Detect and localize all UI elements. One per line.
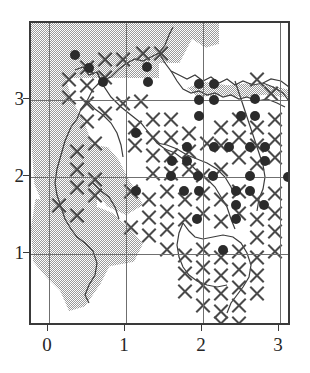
cross-symbol [213, 267, 230, 284]
cross-symbol [133, 93, 150, 110]
cross-symbol [79, 113, 96, 130]
cross-symbol [79, 95, 96, 112]
cross-symbol [87, 171, 104, 188]
cross-symbol [231, 129, 248, 146]
cross-symbol [87, 187, 104, 204]
cross-symbol [115, 95, 132, 112]
cross-symbol [263, 85, 280, 102]
cross-symbol [141, 191, 158, 208]
data-point-dot [194, 186, 204, 196]
data-point-dot [245, 186, 255, 196]
plot-clip-area [31, 23, 288, 323]
cross-symbol [177, 211, 194, 228]
cross-symbol [213, 315, 230, 324]
data-point-dot [84, 63, 94, 73]
data-point-dot [260, 156, 270, 166]
data-point-dot [193, 171, 203, 181]
cross-symbol [153, 45, 170, 62]
cross-symbol [231, 261, 248, 278]
cross-symbol [213, 191, 230, 208]
cross-symbol [249, 267, 266, 284]
data-point-dot [250, 111, 260, 121]
cross-symbol [69, 161, 86, 178]
cross-symbol [249, 285, 266, 302]
data-point-dot [192, 214, 202, 224]
data-point-dot [70, 50, 80, 60]
cross-symbol [231, 243, 248, 260]
cross-symbol [213, 119, 230, 136]
xtick-mark [47, 325, 48, 331]
cross-symbol [213, 213, 230, 230]
gridline-x0 [49, 23, 50, 323]
data-point-dot [143, 77, 153, 87]
cross-symbol [231, 149, 248, 166]
cross-symbol [135, 45, 152, 62]
cross-symbol [249, 249, 266, 266]
data-point-dot [236, 111, 246, 121]
data-point-dot [231, 186, 241, 196]
cross-symbol [87, 135, 104, 152]
cross-symbol [97, 51, 114, 68]
plot-frame [29, 21, 290, 325]
xtick-label-2: 2 [186, 334, 216, 356]
cross-symbol [127, 137, 144, 154]
data-point-dot [98, 77, 108, 87]
xtick-label-3: 3 [263, 334, 293, 356]
data-point-dot [250, 94, 260, 104]
data-point-dot [194, 79, 204, 89]
data-point-dot [142, 62, 152, 72]
cross-symbol [231, 279, 248, 296]
gridline-x2 [203, 23, 204, 323]
ytick-label-1: 1 [0, 242, 24, 264]
gridline-y1 [31, 254, 288, 255]
data-point-dot [245, 171, 255, 181]
distribution-map-figure: 0 1 2 3 3 2 1 [0, 0, 310, 373]
cross-symbol [249, 229, 266, 246]
cross-symbol [69, 143, 86, 160]
data-point-dot [209, 95, 219, 105]
cross-symbol [145, 111, 162, 128]
ytick-label-3: 3 [0, 88, 24, 110]
data-point-dot [182, 156, 192, 166]
data-point-dot [224, 142, 234, 152]
data-point-dot [260, 142, 270, 152]
data-point-dot [231, 214, 241, 224]
cross-symbol [145, 129, 162, 146]
xtick-label-0: 0 [32, 334, 62, 356]
cross-symbol [69, 179, 86, 196]
data-point-dot [259, 200, 269, 210]
data-point-dot [194, 95, 204, 105]
cross-symbol [213, 285, 230, 302]
cross-symbol [231, 297, 248, 314]
cross-symbol [159, 221, 176, 238]
data-point-dot [231, 200, 241, 210]
xtick-mark [124, 325, 125, 331]
xtick-mark [201, 325, 202, 331]
cross-symbol [163, 129, 180, 146]
gridline-x1 [126, 23, 127, 323]
ytick-label-2: 2 [0, 165, 24, 187]
data-point-dot [194, 111, 204, 121]
cross-symbol [141, 209, 158, 226]
gridline-x3 [280, 23, 281, 323]
data-point-dot [179, 186, 189, 196]
data-point-dot [131, 128, 141, 138]
cross-symbol [145, 165, 162, 182]
cross-symbol [159, 183, 176, 200]
cross-symbol [249, 211, 266, 228]
cross-symbol [177, 247, 194, 264]
cross-symbol [141, 227, 158, 244]
cross-symbol [145, 147, 162, 164]
cross-symbol [249, 119, 266, 136]
cross-symbol [69, 207, 86, 224]
cross-symbol [163, 111, 180, 128]
cross-symbol [97, 105, 114, 122]
cross-symbol [231, 315, 248, 324]
data-point-dot [209, 142, 219, 152]
cross-symbol [177, 265, 194, 282]
data-point-dot [245, 142, 255, 152]
xtick-mark [278, 325, 279, 331]
cross-symbol [61, 71, 78, 88]
data-point-dot [209, 79, 219, 89]
data-point-dot [166, 171, 176, 181]
